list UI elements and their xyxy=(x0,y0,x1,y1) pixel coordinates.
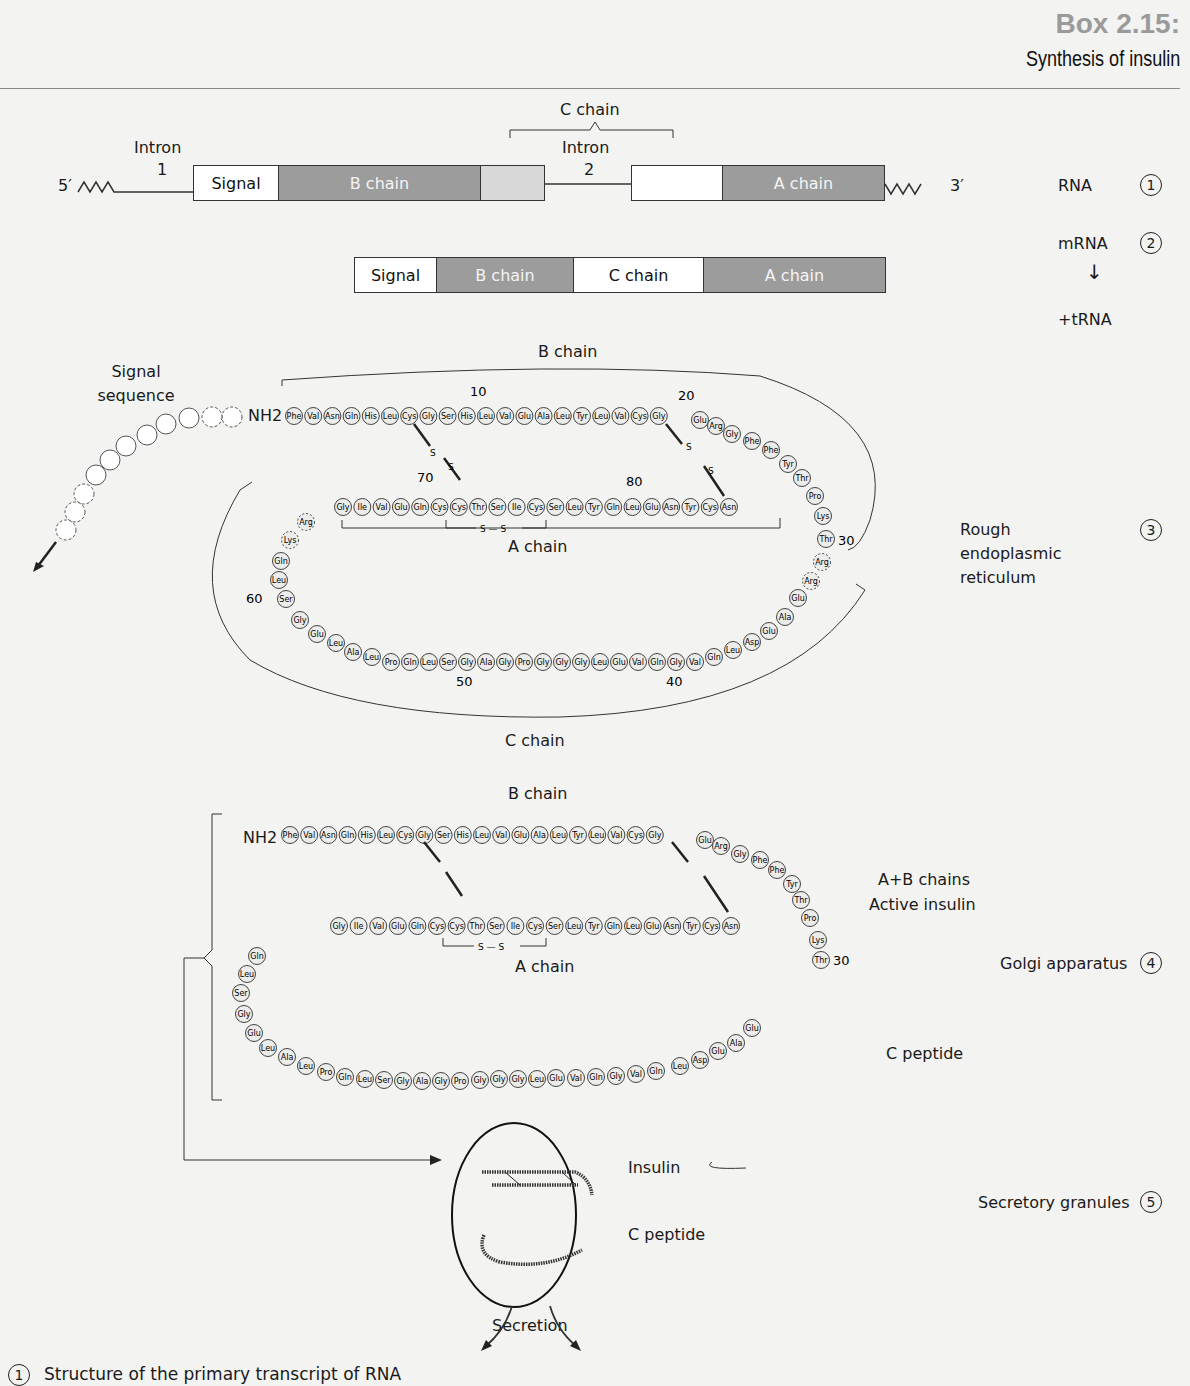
svg-text:S: S xyxy=(708,466,714,476)
svg-text:Cys: Cys xyxy=(529,503,544,512)
svg-text:Glu: Glu xyxy=(693,416,707,425)
svg-text:Gln: Gln xyxy=(403,658,417,667)
svg-text:Ser: Ser xyxy=(441,658,455,667)
svg-text:Gln: Gln xyxy=(707,653,721,662)
svg-text:Ser: Ser xyxy=(489,922,503,931)
svg-text:30: 30 xyxy=(838,533,855,548)
svg-text:60: 60 xyxy=(246,591,263,606)
svg-text:Gly: Gly xyxy=(396,1077,409,1086)
svg-text:Gln: Gln xyxy=(589,1073,603,1082)
svg-text:70: 70 xyxy=(417,470,434,485)
svg-text:Leu: Leu xyxy=(365,653,379,662)
svg-text:Ala: Ala xyxy=(779,613,792,622)
svg-text:Pro: Pro xyxy=(454,1077,467,1086)
svg-text:Val: Val xyxy=(307,412,319,421)
svg-text:Leu: Leu xyxy=(299,1062,313,1071)
svg-text:Ile: Ile xyxy=(354,922,364,931)
svg-text:Asn: Asn xyxy=(325,412,340,421)
svg-text:Gly: Gly xyxy=(434,1077,447,1086)
svg-text:Gln: Gln xyxy=(413,503,427,512)
svg-text:Leu: Leu xyxy=(422,658,436,667)
svg-text:Gly: Gly xyxy=(536,658,549,667)
svg-text:Ala: Ala xyxy=(416,1077,429,1086)
svg-text:His: His xyxy=(461,412,473,421)
svg-text:Glu: Glu xyxy=(762,627,776,636)
svg-text:Leu: Leu xyxy=(726,646,740,655)
svg-text:Glu: Glu xyxy=(247,1029,261,1038)
svg-text:Val: Val xyxy=(376,503,388,512)
svg-text:Pro: Pro xyxy=(804,914,817,923)
svg-text:Glu: Glu xyxy=(391,922,405,931)
svg-text:Tyr: Tyr xyxy=(684,503,697,512)
svg-text:Cys: Cys xyxy=(398,831,413,840)
svg-text:Ala: Ala xyxy=(281,1053,294,1062)
svg-text:Pro: Pro xyxy=(385,658,398,667)
svg-text:Val: Val xyxy=(610,831,622,840)
svg-text:Phe: Phe xyxy=(753,856,768,865)
svg-text:Tyr: Tyr xyxy=(587,503,600,512)
svg-text:Leu: Leu xyxy=(240,970,254,979)
svg-text:Lys: Lys xyxy=(284,536,297,545)
svg-text:Glu: Glu xyxy=(518,412,532,421)
svg-text:Ser: Ser xyxy=(279,595,293,604)
svg-text:Leu: Leu xyxy=(358,1075,372,1084)
svg-text:Glu: Glu xyxy=(310,630,324,639)
svg-text:10: 10 xyxy=(470,384,487,399)
svg-text:Cys: Cys xyxy=(449,922,464,931)
svg-text:Ala: Ala xyxy=(533,831,546,840)
svg-text:Glu: Glu xyxy=(394,503,408,512)
svg-text:Gly: Gly xyxy=(336,503,349,512)
svg-text:Leu: Leu xyxy=(261,1044,275,1053)
svg-text:S: S xyxy=(448,462,454,472)
svg-text:Gly: Gly xyxy=(418,831,431,840)
svg-text:Gln: Gln xyxy=(341,831,355,840)
svg-text:40: 40 xyxy=(666,674,683,689)
svg-text:Glu: Glu xyxy=(646,922,660,931)
svg-text:Thr: Thr xyxy=(470,503,485,512)
svg-text:Cys: Cys xyxy=(704,922,719,931)
svg-text:Leu: Leu xyxy=(590,831,604,840)
svg-text:Gln: Gln xyxy=(606,503,620,512)
svg-text:Ile: Ile xyxy=(512,503,522,512)
svg-text:Val: Val xyxy=(630,1070,642,1079)
svg-text:Leu: Leu xyxy=(383,412,397,421)
svg-text:Gln: Gln xyxy=(274,557,288,566)
svg-text:Leu: Leu xyxy=(567,503,581,512)
svg-text:Val: Val xyxy=(689,658,701,667)
svg-text:Arg: Arg xyxy=(709,422,723,431)
svg-text:Gly: Gly xyxy=(511,1075,524,1084)
svg-text:Gly: Gly xyxy=(652,412,665,421)
svg-text:Asn: Asn xyxy=(665,922,680,931)
svg-text:Val: Val xyxy=(303,831,315,840)
svg-text:Lys: Lys xyxy=(817,512,830,521)
svg-text:Gly: Gly xyxy=(733,850,746,859)
svg-text:Asp: Asp xyxy=(745,638,760,647)
svg-text:Arg: Arg xyxy=(815,558,829,567)
svg-text:Lys: Lys xyxy=(812,936,825,945)
svg-text:Thr: Thr xyxy=(469,922,484,931)
svg-text:Tyr: Tyr xyxy=(685,922,698,931)
svg-text:Gln: Gln xyxy=(649,1067,663,1076)
svg-text:Leu: Leu xyxy=(530,1075,544,1084)
svg-text:Gly: Gly xyxy=(669,658,682,667)
svg-text:Glu: Glu xyxy=(612,658,626,667)
svg-text:Leu: Leu xyxy=(567,922,581,931)
svg-text:Gln: Gln xyxy=(250,952,264,961)
svg-text:Leu: Leu xyxy=(556,412,570,421)
svg-text:Gly: Gly xyxy=(237,1010,250,1019)
svg-text:Phe: Phe xyxy=(770,866,785,875)
svg-text:Tyr: Tyr xyxy=(571,831,584,840)
svg-text:Leu: Leu xyxy=(593,658,607,667)
svg-text:Ala: Ala xyxy=(537,412,550,421)
svg-text:Gln: Gln xyxy=(411,922,425,931)
svg-text:Tyr: Tyr xyxy=(781,460,794,469)
svg-text:Gly: Gly xyxy=(609,1072,622,1081)
svg-text:Gly: Gly xyxy=(725,430,738,439)
svg-text:Glu: Glu xyxy=(549,1074,563,1083)
svg-text:Cys: Cys xyxy=(632,412,647,421)
svg-text:Val: Val xyxy=(499,412,511,421)
svg-text:Arg: Arg xyxy=(299,518,313,527)
svg-text:Leu: Leu xyxy=(673,1062,687,1071)
svg-text:Ser: Ser xyxy=(437,831,451,840)
svg-text:Leu: Leu xyxy=(626,922,640,931)
